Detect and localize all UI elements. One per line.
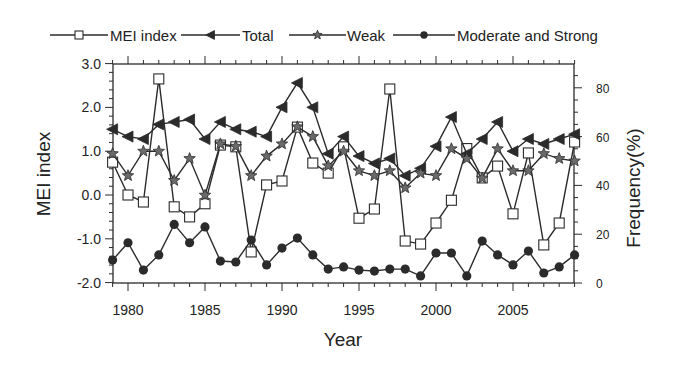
star-marker-icon [553, 153, 564, 164]
legend: MEI indexTotalWeakModerate and Strong [50, 27, 598, 44]
y-axis-title: MEI index [33, 131, 54, 216]
circle-marker-icon [555, 262, 564, 271]
square-marker-icon [75, 31, 83, 39]
square-marker-icon [508, 209, 518, 219]
square-marker-icon [308, 158, 318, 168]
circle-marker-icon [354, 265, 363, 274]
x-tick-label: 1995 [343, 302, 374, 318]
triangle-marker-icon [368, 158, 379, 169]
star-marker-icon [313, 30, 322, 39]
square-marker-icon [354, 213, 364, 223]
circle-marker-icon [170, 220, 179, 229]
y2-tick-label: 40 [596, 179, 610, 193]
circle-marker-icon [216, 256, 225, 265]
y-tick-label: -1.0 [77, 231, 101, 247]
circle-marker-icon [508, 260, 517, 269]
x-tick-label: 1985 [189, 302, 220, 318]
series-layer [107, 74, 581, 281]
legend-item-weak: Weak [289, 27, 386, 44]
circle-marker-icon [493, 250, 502, 259]
triangle-marker-icon [384, 153, 395, 164]
square-marker-icon [431, 218, 441, 228]
triangle-marker-icon [261, 131, 272, 142]
legend-item-total: Total [181, 27, 274, 44]
y2-tick-label: 20 [596, 228, 610, 242]
triangle-marker-icon [307, 102, 318, 113]
square-marker-icon [554, 218, 564, 228]
star-marker-icon [507, 165, 518, 176]
square-marker-icon [539, 240, 549, 250]
triangle-marker-icon [445, 112, 456, 123]
triangle-marker-icon [184, 114, 195, 125]
line-chart: MEI indexTotalWeakModerate and Strong 19… [0, 0, 675, 365]
square-marker-icon [416, 239, 426, 249]
triangle-marker-icon [107, 124, 118, 135]
circle-marker-icon [293, 234, 302, 243]
square-marker-icon [154, 74, 164, 84]
circle-marker-icon [262, 260, 271, 269]
legend-label: Moderate and Strong [457, 27, 598, 44]
triangle-marker-icon [245, 126, 256, 137]
y-tick-label: -2.0 [77, 275, 101, 291]
circle-marker-icon [539, 268, 548, 277]
star-marker-icon [122, 170, 133, 181]
triangle-marker-icon [291, 77, 302, 88]
star-marker-icon [138, 145, 149, 156]
circle-marker-icon [370, 266, 379, 275]
triangle-marker-icon [122, 131, 133, 142]
circle-marker-icon [524, 246, 533, 255]
square-marker-icon [523, 148, 533, 158]
square-marker-icon [493, 161, 503, 171]
circle-marker-icon [431, 248, 440, 257]
triangle-marker-icon [230, 124, 241, 135]
y-tick-label: 2.0 [82, 99, 102, 115]
legend-label: Total [242, 27, 274, 44]
triangle-marker-icon [553, 134, 564, 145]
circle-marker-icon [462, 271, 471, 280]
triangle-marker-icon [430, 141, 441, 152]
x-tick-label: 2005 [497, 302, 528, 318]
y2-tick-label: 60 [596, 131, 610, 145]
series-line [113, 83, 575, 176]
circle-marker-icon [154, 250, 163, 259]
square-marker-icon [369, 204, 379, 214]
legend-item-mei-index: MEI index [50, 27, 177, 44]
triangle-marker-icon [168, 116, 179, 127]
y2-axis-title: Frequency(%) [623, 128, 644, 247]
x-tick-label: 1980 [112, 302, 143, 318]
circle-marker-icon [339, 262, 348, 271]
circle-marker-icon [185, 238, 194, 247]
chart: MEI indexTotalWeakModerate and Strong 19… [0, 0, 675, 365]
circle-marker-icon [231, 257, 240, 266]
triangle-marker-icon [137, 134, 148, 145]
legend-label: MEI index [110, 27, 177, 44]
y2-tick-label: 80 [596, 82, 610, 96]
circle-marker-icon [108, 255, 117, 264]
square-marker-icon [123, 190, 133, 200]
triangle-marker-icon [206, 31, 215, 40]
x-tick-label: 1990 [266, 302, 297, 318]
circle-marker-icon [277, 244, 286, 253]
series-line [113, 79, 575, 252]
circle-marker-icon [478, 236, 487, 245]
star-marker-icon [307, 131, 318, 142]
triangle-marker-icon [353, 151, 364, 162]
circle-marker-icon [385, 264, 394, 273]
circle-marker-icon [420, 31, 427, 38]
triangle-marker-icon [276, 102, 287, 113]
legend-label: Weak [347, 27, 386, 44]
circle-marker-icon [139, 265, 148, 274]
star-marker-icon [492, 143, 503, 154]
star-marker-icon [153, 145, 164, 156]
square-marker-icon [169, 202, 179, 212]
square-marker-icon [400, 236, 410, 246]
square-marker-icon [138, 197, 148, 207]
legend-item-moderate-and-strong: Moderate and Strong [393, 27, 598, 44]
star-marker-icon [384, 165, 395, 176]
triangle-marker-icon [199, 134, 210, 145]
square-marker-icon [385, 84, 395, 94]
square-marker-icon [277, 176, 287, 186]
axes-labels: 1980198519901995200020053.02.01.00.0-1.0… [33, 56, 644, 350]
x-axis-title: Year [324, 329, 363, 350]
star-marker-icon [430, 170, 441, 181]
